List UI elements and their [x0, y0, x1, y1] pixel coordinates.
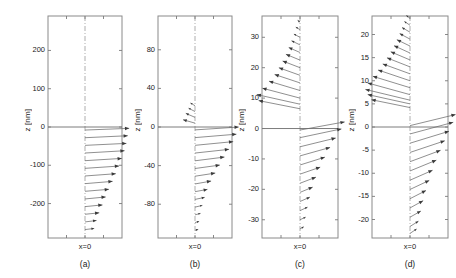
y-tick-label-d-8: -20	[347, 216, 369, 224]
panel-label-d: (d)	[372, 260, 448, 269]
y-tick-label-d-3: 5	[347, 100, 369, 108]
y-tick-label-d-1: 15	[347, 54, 369, 62]
y-tick-label-d-4: 0	[347, 123, 369, 131]
y-tick-label-d-7: -15	[347, 192, 369, 200]
y-tick-label-d-0: 20	[347, 31, 369, 39]
x-axis-label-d: x=0	[372, 243, 448, 251]
y-tick-label-d-6: -10	[347, 169, 369, 177]
y-tick-label-d-2: 10	[347, 77, 369, 85]
plot-area-d	[0, 0, 456, 278]
figure-quiver-panels: z [nm]2001000-100-200x=0(a)z [nm]80400-4…	[0, 0, 456, 278]
y-tick-label-d-5: -5	[347, 146, 369, 154]
